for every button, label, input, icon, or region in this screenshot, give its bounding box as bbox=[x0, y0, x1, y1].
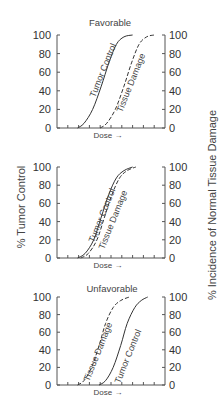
panel-title-unfavorable: Unfavorable bbox=[86, 283, 137, 294]
y-tick-label-right: 100 bbox=[169, 161, 187, 173]
y-tick-label-right: 80 bbox=[169, 309, 181, 321]
x-axis-label-dose: Dose → bbox=[94, 131, 123, 140]
y-tick-label-right: 60 bbox=[169, 66, 181, 78]
y-tick-label-left: 100 bbox=[33, 29, 51, 41]
y-tick-label-right: 0 bbox=[169, 252, 175, 264]
y-tick-label-left: 20 bbox=[39, 103, 51, 115]
left-axis-label: % Tumor Control bbox=[15, 166, 27, 249]
y-tick-label-right: 40 bbox=[169, 85, 181, 97]
curve-label-tissue-damage: Tissue Damage bbox=[115, 52, 148, 114]
y-tick-label-right: 20 bbox=[169, 103, 181, 115]
y-tick-label-right: 40 bbox=[169, 216, 181, 228]
y-tick-label-right: 60 bbox=[169, 326, 181, 338]
y-tick-label-left: 40 bbox=[39, 85, 51, 97]
y-tick-label-left: 100 bbox=[33, 291, 51, 303]
y-tick-label-left: 80 bbox=[39, 179, 51, 191]
y-tick-label-left: 0 bbox=[45, 122, 51, 134]
y-tick-label-left: 80 bbox=[39, 48, 51, 60]
y-tick-label-right: 80 bbox=[169, 48, 181, 60]
y-tick-label-left: 60 bbox=[39, 197, 51, 209]
x-axis-label-dose: Dose → bbox=[94, 261, 123, 270]
y-tick-label-left: 20 bbox=[39, 361, 51, 373]
y-tick-label-left: 20 bbox=[39, 234, 51, 246]
y-tick-label-left: 0 bbox=[45, 379, 51, 391]
y-tick-label-right: 100 bbox=[169, 291, 187, 303]
y-tick-label-right: 20 bbox=[169, 234, 181, 246]
y-tick-label-left: 0 bbox=[45, 252, 51, 264]
x-axis-label-dose: Dose → bbox=[94, 388, 123, 397]
y-tick-label-left: 80 bbox=[39, 309, 51, 321]
y-tick-label-left: 60 bbox=[39, 66, 51, 78]
y-tick-label-left: 100 bbox=[33, 161, 51, 173]
chart-panel-3: 002020404060608080100100Dose → bbox=[33, 291, 188, 397]
y-tick-label-left: 40 bbox=[39, 344, 51, 356]
y-tick-label-right: 20 bbox=[169, 361, 181, 373]
curve-label-tumor-control: Tumor Control bbox=[88, 42, 119, 99]
y-tick-label-right: 80 bbox=[169, 179, 181, 191]
right-axis-label: % Incidence of Normal Tissue Damage bbox=[206, 110, 218, 300]
tumor-control-curve bbox=[78, 35, 133, 128]
panel-title-favorable: Favorable bbox=[89, 17, 131, 28]
y-tick-label-right: 60 bbox=[169, 197, 181, 209]
y-tick-label-right: 40 bbox=[169, 344, 181, 356]
y-tick-label-left: 40 bbox=[39, 216, 51, 228]
y-tick-label-left: 60 bbox=[39, 326, 51, 338]
curve-label-tissue-damage: Tissue Damage bbox=[82, 321, 115, 383]
y-tick-label-right: 100 bbox=[169, 29, 187, 41]
dose-response-figure: 002020404060608080100100Dose →0020204040… bbox=[0, 0, 221, 407]
y-tick-label-right: 0 bbox=[169, 122, 175, 134]
y-tick-label-right: 0 bbox=[169, 379, 175, 391]
